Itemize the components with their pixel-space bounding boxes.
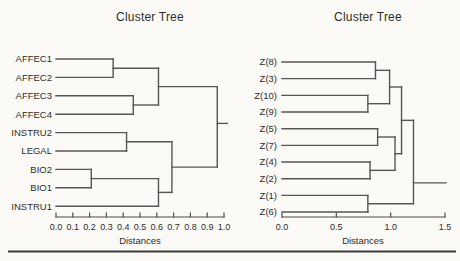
- leaf-label: INSTRU1: [11, 201, 52, 212]
- axis-tick-label: 0.1: [67, 222, 80, 232]
- leaf-label: LEGAL: [21, 145, 52, 156]
- axis-tick-label: 1.5: [439, 222, 452, 232]
- leaf-label: Z(5): [260, 123, 277, 134]
- axis-tick-label: 0.6: [151, 222, 164, 232]
- leaf-label: BIO1: [30, 182, 52, 193]
- right-dendrogram: Z(8)Z(3)Z(10)Z(9)Z(5)Z(7)Z(4)Z(2)Z(1)Z(6…: [254, 56, 451, 232]
- left-axis-label: Distances: [119, 235, 161, 246]
- right-axis-label: Distances: [342, 235, 384, 246]
- axis-tick-label: 0.5: [330, 222, 343, 232]
- leaf-label: Z(6): [260, 206, 277, 217]
- leaf-label: Z(4): [260, 156, 277, 167]
- leaf-label: Z(2): [260, 173, 277, 184]
- leaf-label: AFFEC1: [16, 53, 52, 64]
- leaf-label: Z(7): [260, 140, 277, 151]
- axis-tick-label: 0.0: [276, 222, 289, 232]
- leaf-label: AFFEC4: [16, 109, 52, 120]
- left-chart-title: Cluster Tree: [116, 10, 184, 24]
- axis-tick-label: 0.0: [50, 222, 63, 232]
- leaf-label: Z(9): [260, 106, 277, 117]
- dendrograms-canvas: Cluster Tree Cluster Tree AFFEC1AFFEC2AF…: [0, 0, 460, 261]
- axis-tick-label: 0.2: [83, 222, 96, 232]
- leaf-label: BIO2: [30, 164, 52, 175]
- axis-tick-label: 0.4: [117, 222, 130, 232]
- axis-tick-label: 1.0: [218, 222, 231, 232]
- leaf-label: Z(8): [260, 56, 277, 67]
- axis-tick-label: 0.8: [184, 222, 197, 232]
- axis-tick-label: 0.5: [134, 222, 147, 232]
- scanned-figure-page: Cluster Tree Cluster Tree AFFEC1AFFEC2AF…: [0, 0, 460, 261]
- leaf-label: INSTRU2: [11, 127, 52, 138]
- axis-tick-label: 1.0: [384, 222, 397, 232]
- axis-tick-label: 0.7: [167, 222, 180, 232]
- axis-tick-label: 0.9: [201, 222, 214, 232]
- left-dendrogram: AFFEC1AFFEC2AFFEC3AFFEC4INSTRU2LEGALBIO2…: [11, 53, 230, 232]
- axis-tick-label: 0.3: [100, 222, 113, 232]
- leaf-label: Z(10): [254, 90, 277, 101]
- right-chart-title: Cluster Tree: [334, 10, 402, 24]
- leaf-label: Z(1): [260, 190, 277, 201]
- leaf-label: AFFEC3: [16, 90, 52, 101]
- leaf-label: Z(3): [260, 73, 277, 84]
- leaf-label: AFFEC2: [16, 72, 52, 83]
